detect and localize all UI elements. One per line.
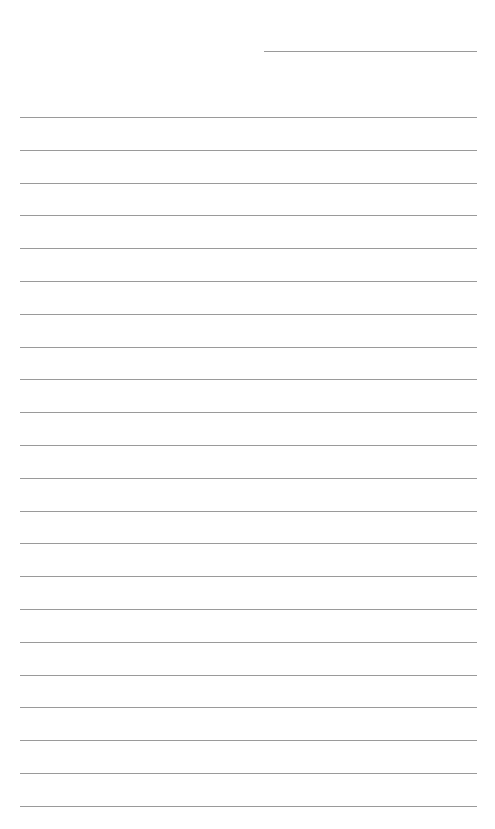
ruled-line	[20, 379, 477, 380]
ruled-line	[20, 543, 477, 544]
ruled-line	[20, 248, 477, 249]
ruled-line	[20, 609, 477, 610]
ruled-line	[20, 281, 477, 282]
lined-paper	[0, 0, 495, 829]
ruled-line	[20, 215, 477, 216]
ruled-line	[20, 773, 477, 774]
ruled-line	[20, 642, 477, 643]
ruled-line	[20, 707, 477, 708]
ruled-line	[20, 806, 477, 807]
ruled-line	[20, 412, 477, 413]
ruled-line	[20, 150, 477, 151]
ruled-line	[20, 511, 477, 512]
ruled-line	[20, 576, 477, 577]
ruled-line	[20, 183, 477, 184]
ruled-line	[20, 478, 477, 479]
ruled-line	[20, 445, 477, 446]
ruled-line	[20, 740, 477, 741]
ruled-line	[20, 347, 477, 348]
ruled-line	[20, 675, 477, 676]
header-line	[264, 51, 477, 52]
ruled-line	[20, 314, 477, 315]
ruled-line	[20, 117, 477, 118]
